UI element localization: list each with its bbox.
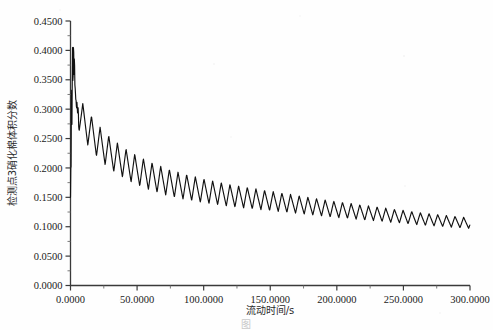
x-tick-label: 100.0000 xyxy=(184,294,223,305)
x-axis-ticks xyxy=(71,286,471,291)
y-tick-label: 0.4500 xyxy=(34,16,63,27)
x-tick-label: 300.0000 xyxy=(450,294,489,305)
y-axis-label: 检测点3硝化棉体积分数 xyxy=(6,100,18,206)
y-tick-label: 0.1500 xyxy=(34,192,63,203)
y-tick-label: 0.0500 xyxy=(34,251,63,262)
y-tick-label: 0.1000 xyxy=(34,221,63,232)
y-axis-ticks xyxy=(66,21,71,286)
x-tick-label: 250.0000 xyxy=(384,294,423,305)
x-tick-label: 50.0000 xyxy=(120,294,154,305)
x-tick-label: 150.0000 xyxy=(251,294,290,305)
y-tick-label: 0.2500 xyxy=(34,133,63,144)
y-tick-label: 0.2000 xyxy=(34,163,63,174)
y-tick-label: 0.3500 xyxy=(34,74,63,85)
x-tick-label: 0.0000 xyxy=(56,294,85,305)
y-tick-label: 0.4000 xyxy=(34,45,63,56)
x-tick-label: 200.0000 xyxy=(317,294,356,305)
figure-container: 0.00000.05000.10000.15000.20000.25000.30… xyxy=(0,0,493,330)
figure-caption: 图 xyxy=(241,319,251,330)
y-tick-label: 0.3000 xyxy=(34,104,63,115)
x-axis-tick-labels: 0.000050.0000100.0000150.0000200.0000250… xyxy=(56,294,490,305)
data-series-curve xyxy=(71,47,470,228)
y-tick-label: 0.0000 xyxy=(34,280,63,291)
axis-lines xyxy=(71,21,471,286)
y-axis-tick-labels: 0.00000.05000.10000.15000.20000.25000.30… xyxy=(34,16,63,292)
chart-canvas: 0.00000.05000.10000.15000.20000.25000.30… xyxy=(0,0,493,330)
x-axis-label: 流动时间/s xyxy=(246,304,295,316)
